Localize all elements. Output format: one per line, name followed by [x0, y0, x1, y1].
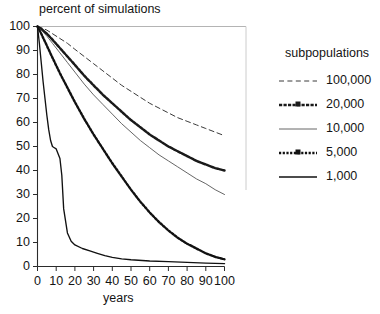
- legend-label: 1,000: [326, 169, 357, 183]
- figure-container: percent of simulations years 01020304050…: [0, 0, 380, 314]
- legend-item-10000[interactable]: 10,000: [252, 118, 378, 140]
- legend-label: 20,000: [326, 97, 364, 111]
- y-tick-label: 30: [0, 187, 30, 201]
- dotted-thick-line-sample: [278, 142, 318, 164]
- legend-item-20000[interactable]: 20,000: [252, 94, 378, 116]
- bold-solid-line-sample: [278, 166, 318, 188]
- series-line-10000: [38, 27, 225, 195]
- y-tick-label: 50: [0, 139, 30, 153]
- y-tick-label: 20: [0, 211, 30, 225]
- series-line-1000: [38, 27, 225, 264]
- x-tick-label: 100: [212, 274, 238, 288]
- dashed-line-sample: [278, 70, 318, 92]
- legend-label: 10,000: [326, 121, 364, 135]
- y-tick-label: 80: [0, 67, 30, 81]
- y-tick-label: 90: [0, 43, 30, 57]
- y-tick-label: 0: [0, 259, 30, 273]
- legend-title: subpopulations: [285, 46, 369, 60]
- x-axis-label: years: [103, 291, 134, 305]
- thin-solid-line-sample: [278, 118, 318, 140]
- chart-title: percent of simulations: [39, 2, 161, 16]
- y-tick-label: 100: [0, 19, 30, 33]
- legend-item-1000[interactable]: 1,000: [252, 166, 378, 188]
- series-line-20000: [38, 27, 225, 171]
- legend-label: 100,000: [326, 73, 371, 87]
- dash-dot-line-sample: [278, 94, 318, 116]
- legend-label: 5,000: [326, 145, 357, 159]
- y-tick-label: 10: [0, 235, 30, 249]
- y-tick-label: 70: [0, 91, 30, 105]
- legend-item-5000[interactable]: 5,000: [252, 142, 378, 164]
- y-tick-label: 60: [0, 115, 30, 129]
- y-tick-label: 40: [0, 163, 30, 177]
- legend-item-100000[interactable]: 100,000: [252, 70, 378, 92]
